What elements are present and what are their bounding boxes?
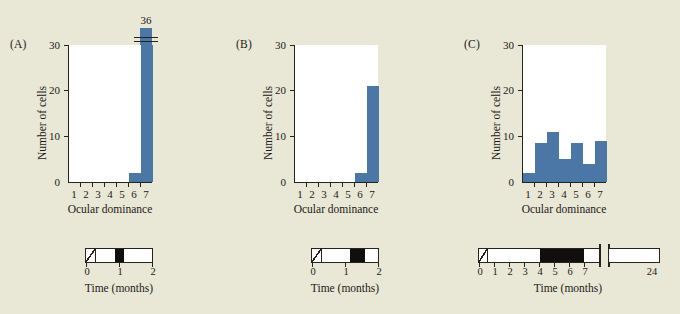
panel-b-xtick-mark-0: [306, 183, 307, 187]
panel-a-ylabel: Number of cells: [36, 86, 48, 160]
panel-b-ytick-10: 10: [264, 130, 286, 142]
panel-b-timeline-num-0: 0: [305, 266, 321, 277]
timeline-segment-dark-rearing: [115, 249, 124, 262]
bar-od-7: [141, 45, 153, 182]
bar-od-4: [559, 159, 571, 182]
panel-c-timeline-num-0: 0: [472, 266, 488, 277]
timeline-segment-white-2: [124, 249, 152, 262]
panel-a-timeline-bar: [85, 248, 153, 263]
panel-c-ytick-20: 20: [492, 84, 514, 96]
panel-c-xtick-mark-2: [558, 183, 559, 187]
bar-od-2: [535, 143, 547, 182]
bar-od-5: [571, 143, 583, 182]
bar-od-1: [523, 173, 535, 182]
panel-b-xtick-mark-5: [366, 183, 367, 187]
bar-od-7: [367, 86, 379, 182]
panel-a-xtick-mark-0: [80, 183, 81, 187]
panel-b-letter: (B): [236, 38, 252, 50]
timeline-segment-white-2: [584, 249, 600, 262]
panel-c-xtick-mark-5: [594, 183, 595, 187]
panel-b-xlabel: Ocular dominance: [286, 203, 386, 215]
panel-a-xtick-mark-5: [140, 183, 141, 187]
bar-od-3: [547, 132, 559, 182]
panel-b-ytick-30: 30: [264, 39, 286, 51]
panel-b-xtick-mark-2: [330, 183, 331, 187]
panel-a-timeline-label: Time (months): [69, 282, 169, 294]
panel-c: (C) Number of cells 30 20 10 0 1 2: [458, 0, 680, 230]
panel-c-timeline-break-left: [599, 244, 601, 267]
panel-b-timeline-num-1: 1: [338, 266, 354, 277]
panel-c-ylabel: Number of cells: [490, 86, 502, 160]
panel-c-xtick-mark-4: [582, 183, 583, 187]
timeline-segment-white-2: [365, 249, 378, 262]
timeline-segment-white-1: [321, 249, 351, 262]
panel-b-ytick-0: 0: [264, 176, 286, 188]
panel-b-plot-area: [294, 45, 378, 183]
panel-a-xlabel: Ocular dominance: [60, 203, 160, 215]
timeline-segment-white-post-break: [609, 249, 659, 262]
bar-od-7: [595, 141, 607, 182]
panel-a-timeline-num-1: 1: [112, 266, 128, 277]
panel-c-xtick-mark-1: [546, 183, 547, 187]
timeline-segment-hatch: [86, 249, 95, 262]
timeline-segment-dark-rearing: [350, 249, 365, 262]
panel-c-timeline-num-6: 6: [562, 266, 578, 277]
panel-b-ylabel: Number of cells: [262, 86, 274, 160]
panel-b-ytick-20: 20: [264, 84, 286, 96]
panel-c-xtick-mark-0: [534, 183, 535, 187]
panel-a-ytick-30: 30: [38, 39, 60, 51]
panel-b-xtick-mark-1: [318, 183, 319, 187]
timeline-segment-hatch: [479, 249, 487, 262]
bar-od-6: [355, 173, 367, 182]
panel-c-timeline-label: Time (months): [518, 282, 618, 294]
panel-a-xtick-mark-1: [92, 183, 93, 187]
panel-a-timeline-num-0: 0: [79, 266, 95, 277]
panel-c-ytick-0: 0: [492, 176, 514, 188]
panel-a-timeline-num-2: 2: [145, 266, 161, 277]
panel-c-xtick-7: 7: [593, 188, 607, 200]
panel-c-timeline-num-3: 3: [517, 266, 533, 277]
panel-b-timeline-bar: [311, 248, 379, 263]
panel-a-ytick-20: 20: [38, 84, 60, 96]
panel-c-timeline-num-7: 7: [577, 266, 593, 277]
panel-c-timeline-num-24: 24: [644, 266, 660, 277]
panel-a-xtick-mark-4: [128, 183, 129, 187]
panel-c-timeline-num-5: 5: [547, 266, 563, 277]
panel-c-timeline-num-1: 1: [487, 266, 503, 277]
panel-a-xtick-7: 7: [139, 188, 153, 200]
panel-b: (B) Number of cells 30 20 10 0 1 2: [232, 0, 458, 230]
panel-a-overflow-value: 36: [131, 14, 161, 26]
timeline-segment-hatch: [312, 249, 321, 262]
timeline-segment-white-1: [487, 249, 540, 262]
timeline-segment-dark-rearing: [540, 249, 584, 262]
panel-b-xtick-7: 7: [365, 188, 379, 200]
panel-c-timeline-bar: [478, 248, 600, 263]
panel-c-timeline-bar-post-break: [608, 248, 660, 263]
panel-b-xtick-mark-4: [354, 183, 355, 187]
panel-c-xlabel: Ocular dominance: [514, 203, 614, 215]
panel-c-ytick-30: 30: [492, 39, 514, 51]
panel-a-ytick-10: 10: [38, 130, 60, 142]
panel-a: (A) Number of cells 30 20 10 0 36: [0, 0, 232, 230]
figure-canvas: (A) Number of cells 30 20 10 0 36: [0, 0, 680, 314]
panel-c-bars: [523, 45, 607, 182]
panel-a-ytick-0: 0: [38, 176, 60, 188]
panel-a-axis-break-marks: [134, 37, 158, 45]
panel-a-xtick-mark-2: [104, 183, 105, 187]
panel-c-letter: (C): [464, 38, 480, 50]
panel-c-plot-area: [522, 45, 606, 183]
panel-a-xtick-mark-3: [116, 183, 117, 187]
panel-c-timeline-num-4: 4: [532, 266, 548, 277]
timeline-segment-white-1: [95, 249, 115, 262]
panel-b-bars: [295, 45, 379, 182]
panel-c-xtick-mark-3: [570, 183, 571, 187]
panel-b-timeline-label: Time (months): [295, 282, 395, 294]
panel-a-plot-area: [68, 45, 152, 183]
bar-od-6: [129, 173, 141, 182]
panel-c-ytick-10: 10: [492, 130, 514, 142]
panel-c-timeline-num-2: 2: [502, 266, 518, 277]
panel-a-bars: [69, 45, 153, 182]
bar-od-6: [583, 164, 595, 182]
panel-a-letter: (A): [10, 38, 27, 50]
panel-b-timeline-num-2: 2: [371, 266, 387, 277]
